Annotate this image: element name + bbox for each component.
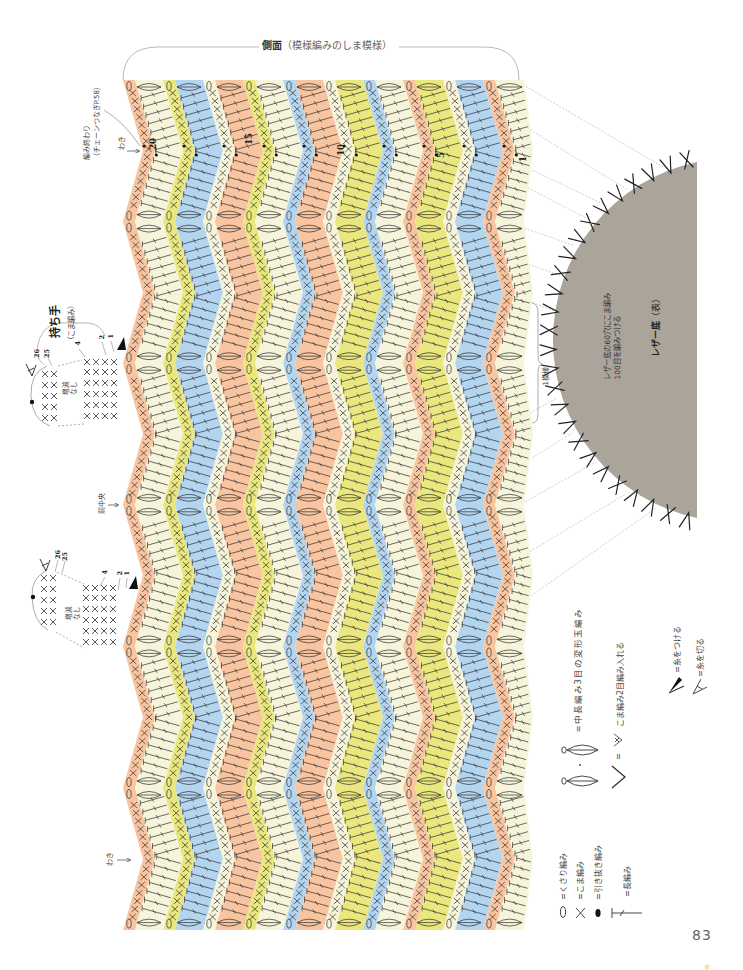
finish-reference: （チェーンつなぎP.58） <box>92 83 102 160</box>
join-yarn-icon <box>129 576 138 589</box>
note-line: なし <box>73 606 81 620</box>
guide-line <box>532 433 572 458</box>
note-line: 増減 <box>65 606 73 620</box>
handle-no-change-note: 増減 なし <box>65 606 81 620</box>
puff-stitch-icon <box>562 745 598 755</box>
row-number: 5 <box>437 152 446 158</box>
finish-label: 編み終わり <box>82 83 92 160</box>
leather-instruction-line: 100目を編みつける <box>613 293 623 380</box>
slip-stitch-dot <box>195 153 198 156</box>
guide-line <box>524 494 626 555</box>
stripe-bands <box>123 80 533 930</box>
slip-stitch-dot <box>155 153 158 156</box>
leather-title-main: レザー底 <box>651 321 661 357</box>
legend-cut-label: =糸を切る <box>696 638 705 677</box>
handle-row-number: 1 <box>124 571 131 576</box>
handle-row-number: 2 <box>99 335 106 340</box>
slip-stitch-dot-icon <box>31 595 35 599</box>
leather-base-shape <box>553 162 697 518</box>
note-line: 増減 <box>62 381 70 395</box>
slip-stitch-dot <box>303 144 306 147</box>
front-center-label: 前中央 <box>98 493 106 514</box>
legend-puff-label: =中長編み3目の変形玉編み <box>574 608 583 733</box>
row-number: 10 <box>337 144 346 156</box>
handle-upper-stitches <box>42 359 117 421</box>
slip-stitch-dot <box>275 153 278 156</box>
puff-lens <box>567 745 598 755</box>
join-yarn-legend-icon <box>669 677 684 693</box>
leather-title-side: （表） <box>651 294 661 321</box>
increase-symbol-icon <box>614 734 622 746</box>
legend-chain-label: =くさり編み <box>559 853 568 900</box>
slip-stitch-dot-icon <box>30 400 34 404</box>
row-number: 1 <box>519 156 528 162</box>
leather-instruction-line: レザー底の60穴にこま編み <box>603 293 613 380</box>
handle-stitch-note: （こま編み） <box>67 302 76 344</box>
legend-slip-label: =引き抜き編み <box>594 845 603 900</box>
slip-stitch-dot <box>263 144 266 147</box>
row-number: 15 <box>245 133 254 145</box>
handle-no-change-note: 増減 なし <box>62 381 78 395</box>
puff-lens <box>567 776 598 786</box>
puff-chain-loop <box>562 747 566 753</box>
leather-instruction: レザー底の60穴にこま編み 100目を編みつける <box>603 293 623 380</box>
page-number: 83 <box>692 927 712 943</box>
repeat-label: 1模様 <box>542 367 550 385</box>
puff-stitch-alt-icon <box>562 776 598 786</box>
chain-stitch-icon <box>560 907 565 918</box>
guide-line <box>528 188 590 220</box>
slip-stitch-dot <box>143 144 146 147</box>
slip-stitch-dot <box>395 153 398 156</box>
pattern-page: 側面（模様編みのしま模様） 編み終わり （チェーンつなぎP.58） わき わき … <box>0 0 743 970</box>
side-panel-title: 側面（模様編みのしま模様） <box>262 40 392 52</box>
guide-line <box>527 128 628 190</box>
legend-increase-label: こま編み2目編み入れる <box>616 642 625 727</box>
yellow-speck <box>705 965 710 970</box>
slip-stitch-dot <box>423 144 426 147</box>
cut-yarn-icon <box>26 364 36 376</box>
side-top-label: わき <box>118 136 126 150</box>
handle-outline <box>31 366 50 426</box>
join-wedge <box>669 677 682 693</box>
legend-dc-label: =長編み <box>623 866 632 897</box>
handle-row-number: 25 <box>62 552 69 561</box>
guide-line <box>532 170 605 205</box>
guide-line <box>528 508 656 598</box>
side-bottom-label: わき <box>106 852 114 866</box>
single-crochet-icon <box>576 908 585 918</box>
slip-stitch-dot <box>235 153 238 156</box>
slip-stitch-dot <box>355 153 358 156</box>
slip-stitch-dot <box>183 144 186 147</box>
stripe-row-1 <box>495 80 533 930</box>
slip-stitch-icon <box>595 909 600 917</box>
legend-separator-dot <box>579 764 581 766</box>
cut-yarn-icon <box>40 559 50 571</box>
leather-title: レザー底（表） <box>651 294 661 357</box>
handle-title: 持ち手 <box>50 305 62 338</box>
slip-stitch-dot <box>475 153 478 156</box>
handle-row-number: 1 <box>108 334 115 339</box>
handle-row-number: 25 <box>44 349 51 358</box>
title-main: 側面 <box>262 40 282 51</box>
slip-stitch-dot <box>383 144 386 147</box>
title-subtitle: （模様編みのしま模様） <box>282 40 392 51</box>
double-crochet-icon <box>612 908 642 918</box>
finish-note: 編み終わり （チェーンつなぎP.58） <box>82 83 102 160</box>
legend-increase-equals: = <box>614 753 623 760</box>
guide-line <box>530 398 557 413</box>
handle-row-number: 4 <box>75 341 82 346</box>
legend-sc-label: =こま編み <box>576 861 585 900</box>
increase-v-icon <box>612 766 625 788</box>
join-yarn-icon <box>117 337 126 350</box>
puff-chain-loop <box>562 778 566 784</box>
handle-row-number: 4 <box>102 570 109 575</box>
handle-row-number: 26 <box>34 349 41 358</box>
note-line: なし <box>70 381 78 395</box>
slip-stitch-dot <box>503 144 506 147</box>
guide-line <box>520 83 663 167</box>
slip-stitch-dot <box>223 144 226 147</box>
cut-yarn-legend-icon <box>693 679 707 694</box>
legend-join-label: =糸をつける <box>673 626 682 673</box>
repeat-brace <box>532 303 542 423</box>
slip-stitch-dot <box>463 144 466 147</box>
